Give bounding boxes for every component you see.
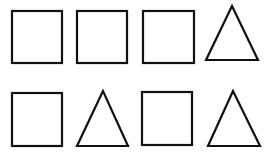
triangle-shape [208, 91, 260, 146]
square-shape [12, 93, 62, 146]
shape-row-bottom [12, 91, 260, 146]
square-shape [143, 11, 194, 63]
square-shape [12, 11, 62, 63]
triangle-shape [77, 91, 128, 146]
shape-sequence-figure [0, 0, 264, 155]
shape-row-top [12, 6, 258, 63]
square-shape [142, 92, 192, 145]
square-shape [77, 11, 127, 63]
triangle-shape [206, 6, 258, 60]
